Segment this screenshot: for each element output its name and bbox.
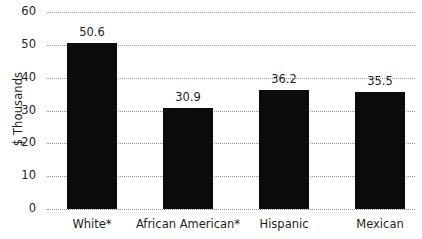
bar-value-label-3: 35.5 [345, 76, 415, 88]
y-tick-label-60: 60 [2, 6, 36, 18]
bar-chart: $ Thousands 6050403020100 50.630.936.235… [0, 0, 422, 239]
y-tick-label-40: 40 [2, 72, 36, 84]
gridline-0 [47, 209, 415, 210]
bar-3 [355, 92, 405, 209]
y-tick-label-30: 30 [2, 105, 36, 117]
bar-value-label-1: 30.9 [153, 92, 223, 104]
bar-2 [259, 90, 309, 209]
bar-value-label-0: 50.6 [57, 27, 127, 39]
gridline-60 [47, 12, 415, 13]
x-axis-label-3: Mexican [320, 219, 422, 231]
y-tick-label-50: 50 [2, 39, 36, 51]
plot-area: 6050403020100 50.630.936.235.5 [47, 12, 415, 209]
y-tick-label-0: 0 [2, 203, 36, 215]
bar-value-label-2: 36.2 [249, 74, 319, 86]
bar-0 [67, 43, 117, 209]
y-tick-label-10: 10 [2, 170, 36, 182]
bar-1 [163, 108, 213, 209]
y-tick-label-20: 20 [2, 138, 36, 150]
